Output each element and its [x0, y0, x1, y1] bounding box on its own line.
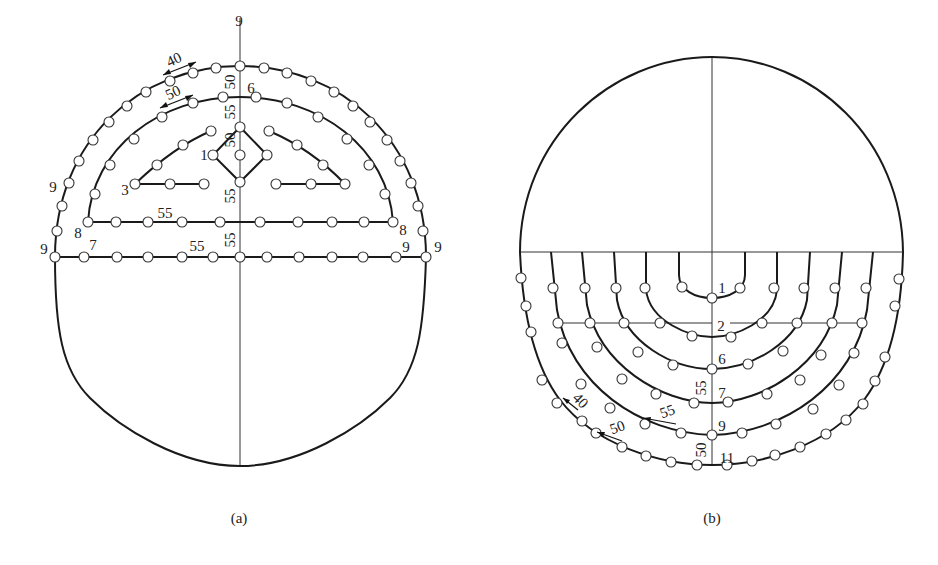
svg-text:2: 2: [717, 318, 725, 334]
svg-text:40: 40: [570, 390, 592, 412]
svg-text:50: 50: [222, 133, 238, 148]
svg-text:9: 9: [402, 239, 410, 255]
svg-text:50: 50: [693, 443, 709, 458]
svg-text:40: 40: [164, 49, 184, 70]
svg-text:9: 9: [235, 13, 243, 29]
hole-row-3-right-arc: [269, 131, 345, 184]
svg-text:7: 7: [718, 385, 726, 401]
svg-text:9: 9: [40, 241, 48, 257]
svg-text:55: 55: [222, 189, 238, 204]
svg-text:8: 8: [399, 222, 407, 238]
svg-text:55: 55: [158, 205, 173, 221]
panel-b: 1 2 6 7 9 11 55 40 55 50 50 (b): [516, 57, 904, 527]
svg-text:9: 9: [49, 179, 57, 195]
svg-text:55: 55: [222, 233, 238, 248]
svg-text:9: 9: [434, 239, 442, 255]
svg-text:1: 1: [200, 147, 208, 163]
svg-text:50: 50: [608, 417, 628, 437]
hole-group-row-2-b: [521, 301, 900, 342]
svg-text:9: 9: [718, 418, 726, 434]
svg-text:55: 55: [693, 381, 709, 396]
svg-text:11: 11: [720, 450, 734, 466]
caption-a: (a): [231, 510, 248, 527]
panel-a: 9 6 1 3 9 8 8 9 7 9 9 40 50 50 55 50 55 …: [40, 13, 442, 527]
svg-text:55: 55: [222, 105, 238, 120]
hole-group-top-row-b: [516, 273, 904, 293]
hole-group-labels-b: 1 2 6 7 9 11: [717, 280, 734, 466]
spacing-labels-b: 55 40 55 50 50: [570, 381, 709, 458]
svg-text:6: 6: [247, 80, 255, 96]
hole-group-labels-a: 9 6 1 3 9 8 8 9 7 9 9: [40, 13, 442, 257]
blast-hole-diagram: 9 6 1 3 9 8 8 9 7 9 9 40 50 50 55 50 55 …: [0, 0, 938, 565]
svg-text:55: 55: [190, 238, 205, 254]
svg-text:50: 50: [222, 75, 238, 90]
caption-b: (b): [703, 510, 721, 527]
svg-text:1: 1: [718, 280, 726, 296]
svg-text:6: 6: [718, 351, 726, 367]
svg-text:55: 55: [658, 401, 678, 421]
svg-text:8: 8: [74, 225, 82, 241]
svg-text:7: 7: [89, 237, 97, 253]
hole-group-cut-1: [208, 122, 272, 187]
svg-text:3: 3: [121, 182, 129, 198]
